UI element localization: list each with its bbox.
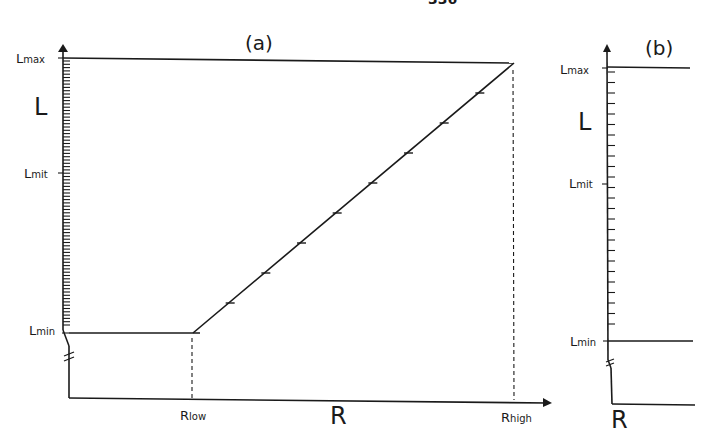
rhigh-dashed-line — [513, 70, 514, 400]
arrow-right-icon — [543, 398, 552, 407]
panel-a-dashed-lines — [192, 70, 514, 400]
panel-b-y-axis — [603, 44, 614, 404]
panel-a-curve — [63, 58, 514, 333]
figure: 336 (a) L Lmax Lmit Lmin — [0, 0, 714, 447]
panel-b-title: (b) — [645, 36, 673, 60]
panel-b-x-label: R — [611, 406, 628, 434]
panel-b-levels — [607, 67, 695, 405]
panel-a-lmin-label: Lmin — [29, 323, 55, 338]
arrow-up-icon — [603, 44, 611, 52]
panel-a-title: (a) — [245, 31, 273, 55]
baseline — [612, 404, 695, 405]
lmax-line — [63, 58, 514, 63]
panel-a-lmax-label: Lmax — [16, 51, 45, 66]
panel-a-lmit-label: Lmit — [24, 166, 48, 181]
panel-b-y-label: L — [578, 108, 592, 136]
panel-b-lmax-label: Lmax — [560, 62, 589, 77]
panel-a-y-ticks — [58, 58, 70, 333]
diagonal-line — [193, 63, 514, 333]
panel-a-x-label: R — [330, 402, 347, 430]
panel-b-lmin-label: Lmin — [570, 334, 596, 349]
panel-b: (b) L Lmax Lmit Lmin R — [560, 36, 695, 434]
lmax-line — [607, 67, 690, 68]
panel-a-rhigh-label: Rhigh — [501, 410, 532, 425]
panel-a: (a) L Lmax Lmit Lmin — [16, 31, 552, 430]
panel-b-lmit-label: Lmit — [569, 176, 593, 191]
panel-a-rlow-label: Rlow — [180, 408, 206, 423]
page-number: 336 — [428, 0, 457, 7]
panel-a-y-label: L — [34, 93, 48, 121]
panel-a-x-axis — [69, 398, 552, 407]
panel-a-diagonal-ticks — [226, 93, 485, 303]
axis-break-icon — [606, 359, 614, 366]
arrow-up-icon — [58, 44, 68, 52]
